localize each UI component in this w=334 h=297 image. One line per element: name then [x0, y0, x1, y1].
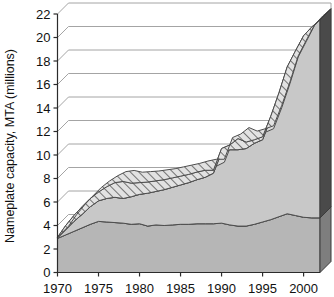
- x-tick-labels: 1970197519801985199019952000: [43, 281, 318, 296]
- y-tick-label: 10: [36, 148, 50, 163]
- y-tick-label: 18: [36, 54, 50, 69]
- series-side-face-middle-band: [320, 9, 331, 218]
- x-tick-label: 1980: [125, 281, 154, 296]
- y-tick-label: 16: [36, 77, 50, 92]
- x-tick-label: 1990: [207, 281, 236, 296]
- y-tick-label: 8: [43, 171, 50, 186]
- y-tick-label: 14: [36, 101, 50, 116]
- y-tick-label: 12: [36, 124, 50, 139]
- chart-container: 0246810121416182022 19701975198019851990…: [0, 0, 334, 297]
- y-axis-title: Nameplate capacity, MTA (millions): [3, 49, 17, 243]
- x-tick-label: 1985: [166, 281, 195, 296]
- area-chart: 0246810121416182022 19701975198019851990…: [0, 0, 334, 297]
- y-tick-label: 2: [43, 242, 50, 257]
- y-tick-label: 20: [36, 30, 50, 45]
- y-tick-label: 22: [36, 7, 50, 22]
- y-tick-label: 4: [43, 218, 50, 233]
- x-tick-label: 1970: [43, 281, 72, 296]
- y-tick-label: 6: [43, 195, 50, 210]
- x-tick-label: 1975: [84, 281, 113, 296]
- x-tick-label: 1995: [248, 281, 277, 296]
- y-tick-label: 0: [43, 265, 50, 280]
- x-tick-label: 2000: [289, 281, 318, 296]
